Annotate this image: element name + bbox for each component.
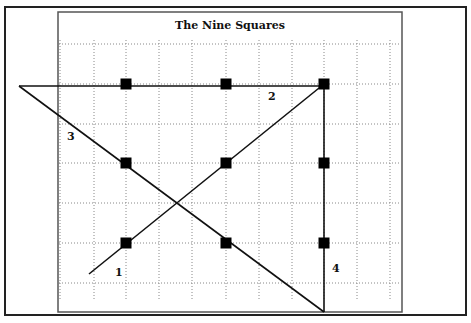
square-5	[221, 158, 232, 169]
segment-label-2: 2	[268, 90, 276, 103]
square-2	[221, 79, 232, 90]
square-8	[221, 238, 232, 249]
diagram-title: The Nine Squares	[175, 19, 285, 32]
square-9	[319, 238, 330, 249]
nine-squares-diagram: The Nine Squares 1432	[0, 0, 471, 323]
segment-label-1: 1	[115, 266, 123, 279]
square-4	[121, 158, 132, 169]
square-6	[319, 158, 330, 169]
square-3	[319, 79, 330, 90]
diagram-canvas: The Nine Squares 1432	[0, 0, 471, 323]
segment-label-3: 3	[67, 130, 75, 143]
square-7	[121, 238, 132, 249]
segment-label-4: 4	[332, 262, 340, 275]
square-1	[121, 79, 132, 90]
